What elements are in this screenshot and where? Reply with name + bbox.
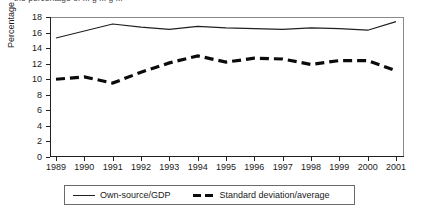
legend-entry-own-source: Own-source/GDP [73,190,171,201]
x-axis-tick [311,157,312,161]
series-line-solid [56,22,396,38]
x-axis-tick [169,157,170,161]
x-axis-tick-label: 1997 [273,162,293,173]
x-axis-tick-label: 1989 [46,162,66,173]
chart-legend: Own-source/GDP Standard deviation/averag… [64,185,355,205]
x-axis-tick-label: 1996 [244,162,264,173]
x-axis-tick [226,157,227,161]
x-axis-tick [198,157,199,161]
y-axis-tick-label: 18 [32,12,42,23]
y-axis-tick-label: 2 [37,136,42,147]
x-axis-tick-label: 1990 [74,162,94,173]
x-axis-tick [254,157,255,161]
y-axis-tick-label: 0 [37,152,42,163]
x-axis-tick [339,157,340,161]
y-axis-tick-label: 12 [32,59,42,70]
x-axis-tick-label: 1993 [159,162,179,173]
x-axis-tick [368,157,369,161]
y-axis-tick: 0 [46,157,50,158]
y-axis-tick-label: 4 [37,121,42,132]
clipped-caption: the percentage of ... g ... g ... [14,0,274,4]
series-line-dashed [56,56,396,83]
x-axis-tick-label: 2000 [358,162,378,173]
x-axis-tick [113,157,114,161]
x-axis-tick-label: 1995 [216,162,236,173]
x-axis-tick [283,157,284,161]
y-axis-tick-label: 10 [32,74,42,85]
series-lines [50,17,404,157]
legend-label-own-source: Own-source/GDP [100,190,171,201]
x-axis-tick-label: 1994 [188,162,208,173]
legend-entry-standard-deviation: Standard deviation/average [193,190,330,201]
y-axis-title: Percentage [6,2,17,48]
y-axis-tick-label: 14 [32,43,42,54]
legend-swatch-solid-line-icon [73,195,95,196]
x-axis-tick-label: 1999 [329,162,349,173]
y-axis-tick-label: 16 [32,28,42,39]
x-axis-tick [56,157,57,161]
plot-area: 181614121086420 198919901991199219931994… [50,17,404,157]
x-axis-tick-label: 1991 [103,162,123,173]
legend-label-standard-deviation: Standard deviation/average [220,190,330,201]
x-axis-tick-label: 1992 [131,162,151,173]
x-axis-tick [84,157,85,161]
y-axis-tick-label: 8 [37,90,42,101]
x-axis-tick-label: 1998 [301,162,321,173]
legend-swatch-dashed-line-icon [193,194,215,197]
x-axis-tick [396,157,397,161]
x-axis-tick-label: 2001 [386,162,406,173]
x-axis-tick [141,157,142,161]
chart-figure: the percentage of ... g ... g ... Percen… [0,0,426,215]
y-axis-tick-label: 6 [37,105,42,116]
